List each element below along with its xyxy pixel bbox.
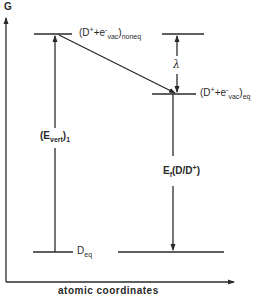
label-part: +e bbox=[94, 27, 105, 38]
label-sub: 1 bbox=[66, 136, 70, 143]
label-sub: eq bbox=[84, 251, 92, 258]
lambda-label: λ bbox=[173, 59, 180, 70]
label-part: (D/D bbox=[172, 165, 193, 176]
evert-label: (Evert)1 bbox=[40, 131, 70, 141]
relaxation-arrow bbox=[59, 35, 175, 93]
label-sub: vert bbox=[50, 136, 63, 143]
label-part: ) bbox=[197, 165, 200, 176]
ef-label: Ef(D/D+) bbox=[163, 166, 200, 176]
label-part: (D bbox=[79, 27, 90, 38]
label-part: +e bbox=[215, 87, 226, 98]
label-part: (D bbox=[200, 87, 211, 98]
label-part: (E bbox=[40, 130, 50, 141]
x-axis-label: atomic coordinates bbox=[58, 286, 159, 296]
label-sub: vac bbox=[107, 33, 118, 40]
noneq-level-label: (D++e-vac)noneq bbox=[79, 28, 141, 38]
ground-level-label: Deq bbox=[77, 246, 92, 256]
label-sub: noneq bbox=[122, 33, 141, 40]
label-part: E bbox=[163, 165, 170, 176]
label-sup: - bbox=[105, 26, 107, 33]
label-sub: eq bbox=[243, 93, 251, 100]
y-axis-label: G bbox=[4, 2, 12, 12]
label-sub: vac bbox=[228, 93, 239, 100]
diagram-canvas bbox=[0, 0, 272, 296]
label-sup: - bbox=[226, 86, 228, 93]
eq-level-label: (D++e-vac)eq bbox=[200, 88, 250, 98]
